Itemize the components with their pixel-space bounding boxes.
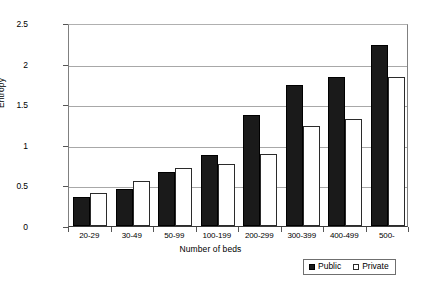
y-tick-label: 2: [0, 61, 28, 70]
x-tick-label: 30-49: [111, 231, 154, 240]
y-tick-label: 1.5: [0, 101, 28, 110]
bar-public-20-29: [73, 197, 90, 226]
x-tick-label: 500-: [366, 231, 409, 240]
bar-public-50-99: [158, 172, 175, 226]
bar-private-30-49: [133, 181, 150, 226]
x-tick-label: 100-199: [196, 231, 239, 240]
plot-area: [68, 24, 408, 227]
bar-private-400-499: [345, 119, 362, 226]
legend-label-public: Public: [318, 262, 341, 271]
x-tick-mark: [408, 227, 409, 232]
bar-private-50-99: [175, 168, 192, 226]
legend-label-private: Private: [362, 262, 388, 271]
empty-square-icon: [353, 264, 359, 270]
bar-private-100-199: [218, 164, 235, 226]
bar-private-300-399: [303, 126, 320, 226]
y-tick-label: 0.5: [0, 182, 28, 191]
x-axis-title-text: Number of beds: [180, 244, 242, 254]
bar-public-100-199: [201, 155, 218, 226]
bar-private-500-: [388, 77, 405, 226]
chart-legend: Public Private: [303, 259, 396, 275]
legend-entry-public: Public: [309, 262, 341, 271]
bar-public-30-49: [116, 189, 133, 226]
x-tick-label: 400-499: [323, 231, 366, 240]
y-tick-label: 0: [0, 223, 28, 232]
legend-entry-private: Private: [353, 262, 388, 271]
x-tick-label: 200-299: [238, 231, 281, 240]
gridline: [69, 106, 407, 107]
bar-public-300-399: [286, 85, 303, 226]
x-axis-title: Number of beds: [0, 244, 441, 254]
bar-public-400-499: [328, 77, 345, 226]
entropy-bar-chart: Entropy 00.511.522.5 20-2930-4950-99100-…: [0, 0, 441, 288]
bar-private-200-299: [260, 154, 277, 226]
x-tick-label: 50-99: [153, 231, 196, 240]
x-tick-label: 300-399: [281, 231, 324, 240]
y-tick-label: 2.5: [0, 20, 28, 29]
gridline: [69, 66, 407, 67]
y-tick-label: 1: [0, 142, 28, 151]
bar-private-20-29: [90, 193, 107, 226]
x-tick-label: 20-29: [68, 231, 111, 240]
bar-public-200-299: [243, 115, 260, 226]
bar-public-500-: [371, 45, 388, 226]
filled-square-icon: [309, 264, 315, 270]
